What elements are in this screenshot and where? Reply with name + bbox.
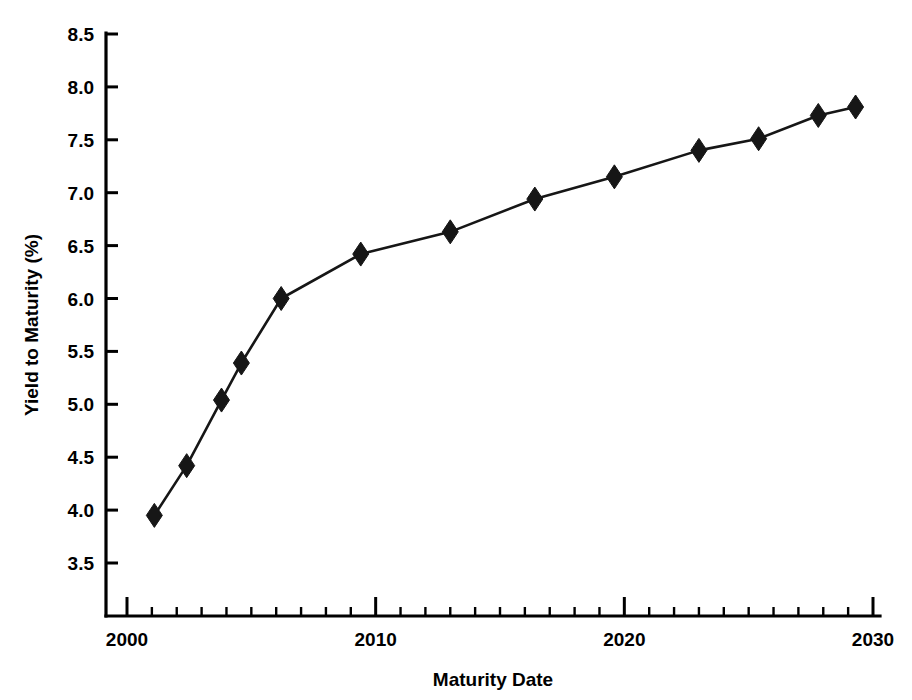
x-tick-label: 2030	[852, 629, 894, 650]
x-axis-title: Maturity Date	[433, 669, 553, 690]
yield-curve-chart: 3.54.04.55.05.56.06.57.07.58.08.5 200020…	[0, 0, 912, 700]
y-tick-label: 8.5	[68, 24, 95, 45]
chart-background	[0, 0, 912, 700]
x-tick-label: 2010	[355, 629, 397, 650]
y-tick-label: 6.5	[68, 236, 95, 257]
y-tick-label: 8.0	[68, 77, 94, 98]
chart-plot-area: 3.54.04.55.05.56.06.57.07.58.08.5 200020…	[0, 0, 912, 700]
y-tick-label: 4.0	[68, 500, 94, 521]
y-tick-label: 7.0	[68, 183, 94, 204]
y-tick-label: 6.0	[68, 289, 94, 310]
y-tick-label: 5.5	[68, 341, 95, 362]
x-tick-label: 2000	[106, 629, 148, 650]
y-tick-label: 7.5	[68, 130, 95, 151]
y-axis-title: Yield to Maturity (%)	[21, 234, 42, 416]
x-tick-label: 2020	[603, 629, 645, 650]
y-tick-label: 4.5	[68, 447, 95, 468]
y-tick-label: 3.5	[68, 553, 95, 574]
y-tick-label: 5.0	[68, 394, 94, 415]
